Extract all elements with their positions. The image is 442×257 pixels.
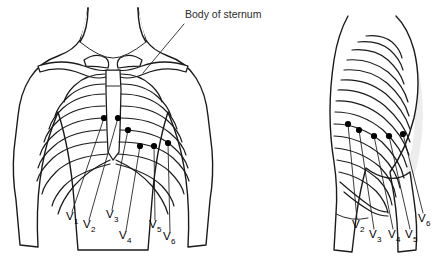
lead-sub-v5: 5: [157, 225, 162, 234]
electrode-v3[interactable]: [125, 127, 131, 133]
ecg-lead-placement-figure: V 1 V 2 V 3 V 4 V 5 V 6: [0, 0, 442, 257]
lead-label-v6: V: [163, 230, 171, 242]
electrode-lateral-v5[interactable]: [386, 133, 392, 139]
lead-sub-lateral-v2: 2: [360, 225, 365, 234]
lead-sub-lateral-v3: 3: [377, 235, 382, 244]
lead-label-lateral-v5: V: [405, 228, 413, 240]
electrode-lateral-v4[interactable]: [371, 133, 377, 139]
lateral-chest-view: V 2 V 3 V 4 V 5 V 6: [330, 16, 431, 252]
electrode-v4[interactable]: [137, 143, 143, 149]
lead-sub-lateral-v5: 5: [413, 235, 418, 244]
shoulder-bone-left: [84, 55, 109, 68]
lead-sub-lateral-v4: 4: [396, 235, 401, 244]
figure-canvas: V 1 V 2 V 3 V 4 V 5 V 6: [0, 0, 442, 257]
anterior-chest-view: V 1 V 2 V 3 V 4 V 5 V 6: [13, 8, 212, 250]
lead-label-v4: V: [119, 229, 127, 241]
lead-sub-v4: 4: [127, 236, 132, 245]
lead-label-lateral-v2: V: [352, 218, 360, 230]
electrode-v6[interactable]: [165, 140, 171, 146]
lead-label-v5: V: [149, 218, 157, 230]
lateral-lead-labels: V 2 V 3 V 4 V 5 V 6: [352, 212, 431, 244]
electrode-v1[interactable]: [101, 115, 107, 121]
lead-label-v1: V: [66, 210, 74, 222]
electrode-v2[interactable]: [115, 115, 121, 121]
lead-sub-v6: 6: [171, 237, 176, 246]
electrode-lateral-v3[interactable]: [356, 127, 362, 133]
lead-label-v3: V: [106, 208, 114, 220]
lead-label-lateral-v4: V: [388, 228, 396, 240]
lead-sub-lateral-v6: 6: [426, 219, 431, 228]
electrode-lateral-v2[interactable]: [345, 121, 351, 127]
lead-label-lateral-v3: V: [369, 228, 377, 240]
electrode-v5[interactable]: [151, 143, 157, 149]
lead-label-v2: V: [83, 218, 91, 230]
lead-sub-v1: 1: [74, 217, 79, 226]
lead-sub-v3: 3: [114, 215, 119, 224]
annotation-body-of-sternum: Body of sternum: [185, 8, 262, 20]
electrode-lateral-v6[interactable]: [400, 131, 406, 137]
shoulder-bone-right: [117, 55, 142, 68]
lead-sub-v2: 2: [91, 225, 96, 234]
lead-label-lateral-v6: V: [418, 212, 426, 224]
